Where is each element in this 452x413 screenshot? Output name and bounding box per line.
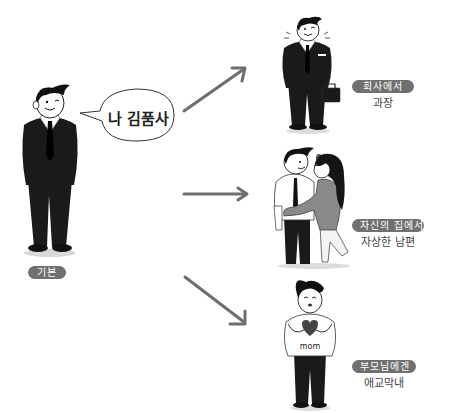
branch-subtitle-office: 과장 — [352, 97, 414, 111]
arrow-up-right-icon — [182, 64, 252, 114]
branch-subtitle-home: 자상한 남편 — [352, 236, 424, 250]
branch-badge-office: 회사에서 — [352, 80, 414, 93]
arrow-right-icon — [182, 186, 252, 202]
figure-son-heart-hands: mom — [280, 276, 344, 412]
arrow-down-right-icon — [182, 274, 252, 329]
branch-subtitle-parents: 애교막내 — [352, 377, 416, 391]
figure-businessman-briefcase — [278, 18, 342, 136]
shirt-text: mom — [300, 342, 321, 351]
branch-badge-parents: 부모님에겐 — [352, 360, 416, 373]
branch-badge-home: 자신의 집에서 — [352, 219, 424, 232]
main-badge: 기본 — [28, 266, 66, 279]
speech-bubble-text: 나 김품사 — [108, 107, 169, 128]
figure-husband-wife-hug — [270, 146, 358, 270]
